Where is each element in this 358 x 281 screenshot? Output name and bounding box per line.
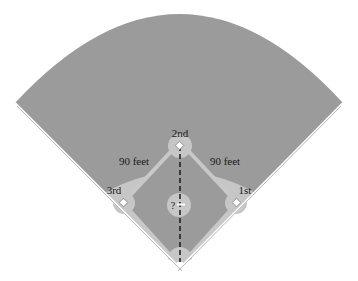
third-base-label: 3rd xyxy=(107,184,122,196)
unknown-distance-label: ? xyxy=(171,200,176,211)
left-distance-label: 90 feet xyxy=(119,155,149,167)
pitchers-rubber-icon xyxy=(177,204,185,206)
right-distance-label: 90 feet xyxy=(210,155,240,167)
first-base-label: 1st xyxy=(239,184,252,196)
second-base-label: 2nd xyxy=(172,127,189,139)
baseball-field-diagram: 2nd 3rd 1st 90 feet 90 feet ? xyxy=(0,0,358,281)
